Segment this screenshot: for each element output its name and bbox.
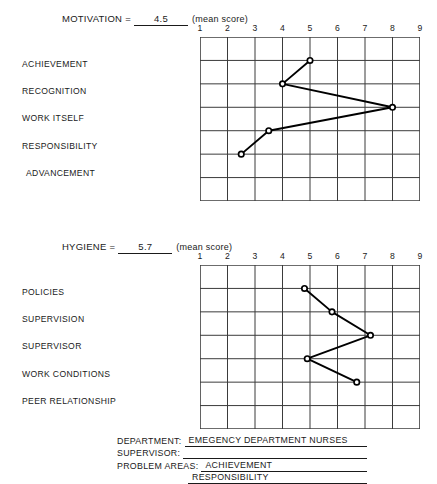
row-label-policies: POLICIES <box>22 288 64 297</box>
axis-tick-1: 1 <box>198 252 203 261</box>
data-point-recognition[interactable] <box>280 81 285 86</box>
data-point-work-conditions[interactable] <box>305 356 310 361</box>
data-point-peer-relationship[interactable] <box>354 379 359 384</box>
axis-tick-5: 5 <box>308 252 313 261</box>
problem-areas-row-2: RESPONSIBILITY <box>117 472 367 484</box>
row-label-advancement: ADVANCEMENT <box>26 169 95 178</box>
hygiene-equals: = <box>110 241 116 252</box>
data-point-responsibility[interactable] <box>266 128 271 133</box>
row-label-supervision: SUPERVISION <box>22 315 84 324</box>
axis-tick-4: 4 <box>280 24 285 33</box>
axis-tick-2: 2 <box>225 24 230 33</box>
problem-areas-row: PROBLEM AREAS: ACHIEVEMENT <box>117 459 367 472</box>
axis-tick-1: 1 <box>198 24 203 33</box>
motivation-axis-ticks: 123456789 <box>200 24 420 36</box>
motivation-equals: = <box>125 13 131 24</box>
department-label: DEPARTMENT: <box>117 436 182 447</box>
motivation-label: MOTIVATION <box>62 13 122 24</box>
problem-areas-label: PROBLEM AREAS: <box>117 461 198 472</box>
axis-tick-8: 8 <box>390 252 395 261</box>
hygiene-grid <box>200 265 420 429</box>
row-label-achievement: ACHIEVEMENT <box>22 60 88 69</box>
problem-area-field-2[interactable]: RESPONSIBILITY <box>188 472 367 484</box>
hygiene-chart[interactable]: 123456789 <box>200 265 420 429</box>
row-label-responsibility: RESPONSIBILITY <box>22 142 98 151</box>
data-point-advancement[interactable] <box>239 151 244 156</box>
axis-tick-3: 3 <box>253 24 258 33</box>
department-field[interactable]: EMEGENCY DEPARTMENT NURSES <box>185 435 367 447</box>
row-label-work-conditions: WORK CONDITIONS <box>22 370 110 379</box>
axis-tick-2: 2 <box>225 252 230 261</box>
data-point-work-itself[interactable] <box>390 105 395 110</box>
axis-tick-5: 5 <box>308 24 313 33</box>
axis-tick-8: 8 <box>390 24 395 33</box>
hygiene-unit: (mean score) <box>176 242 232 252</box>
problem-area-field-1[interactable]: ACHIEVEMENT <box>201 460 367 472</box>
row-label-work-itself: WORK ITSELF <box>22 114 84 123</box>
data-point-supervision[interactable] <box>329 309 334 314</box>
axis-tick-9: 9 <box>418 24 423 33</box>
axis-tick-4: 4 <box>280 252 285 261</box>
hygiene-label: HYGIENE <box>62 241 107 252</box>
row-label-peer-relationship: PEER RELATIONSHIP <box>22 397 116 406</box>
data-point-policies[interactable] <box>302 286 307 291</box>
supervisor-row: SUPERVISOR: <box>117 447 367 460</box>
row-label-recognition: RECOGNITION <box>22 87 87 96</box>
axis-tick-3: 3 <box>253 252 258 261</box>
motivation-score-value[interactable]: 4.5 <box>134 13 188 26</box>
axis-tick-6: 6 <box>335 24 340 33</box>
axis-tick-6: 6 <box>335 252 340 261</box>
data-point-supervisor[interactable] <box>368 333 373 338</box>
worksheet-form: DEPARTMENT: EMEGENCY DEPARTMENT NURSES S… <box>117 434 367 484</box>
axis-tick-9: 9 <box>418 252 423 261</box>
supervisor-label: SUPERVISOR: <box>117 448 180 459</box>
data-point-achievement[interactable] <box>307 58 312 63</box>
axis-tick-7: 7 <box>363 24 368 33</box>
motivation-chart[interactable]: 123456789 <box>200 37 420 201</box>
row-label-supervisor: SUPERVISOR <box>22 342 82 351</box>
axis-tick-7: 7 <box>363 252 368 261</box>
hygiene-axis-ticks: 123456789 <box>200 252 420 264</box>
hygiene-score-value[interactable]: 5.7 <box>118 241 172 254</box>
department-row: DEPARTMENT: EMEGENCY DEPARTMENT NURSES <box>117 434 367 447</box>
motivation-grid <box>200 37 420 201</box>
